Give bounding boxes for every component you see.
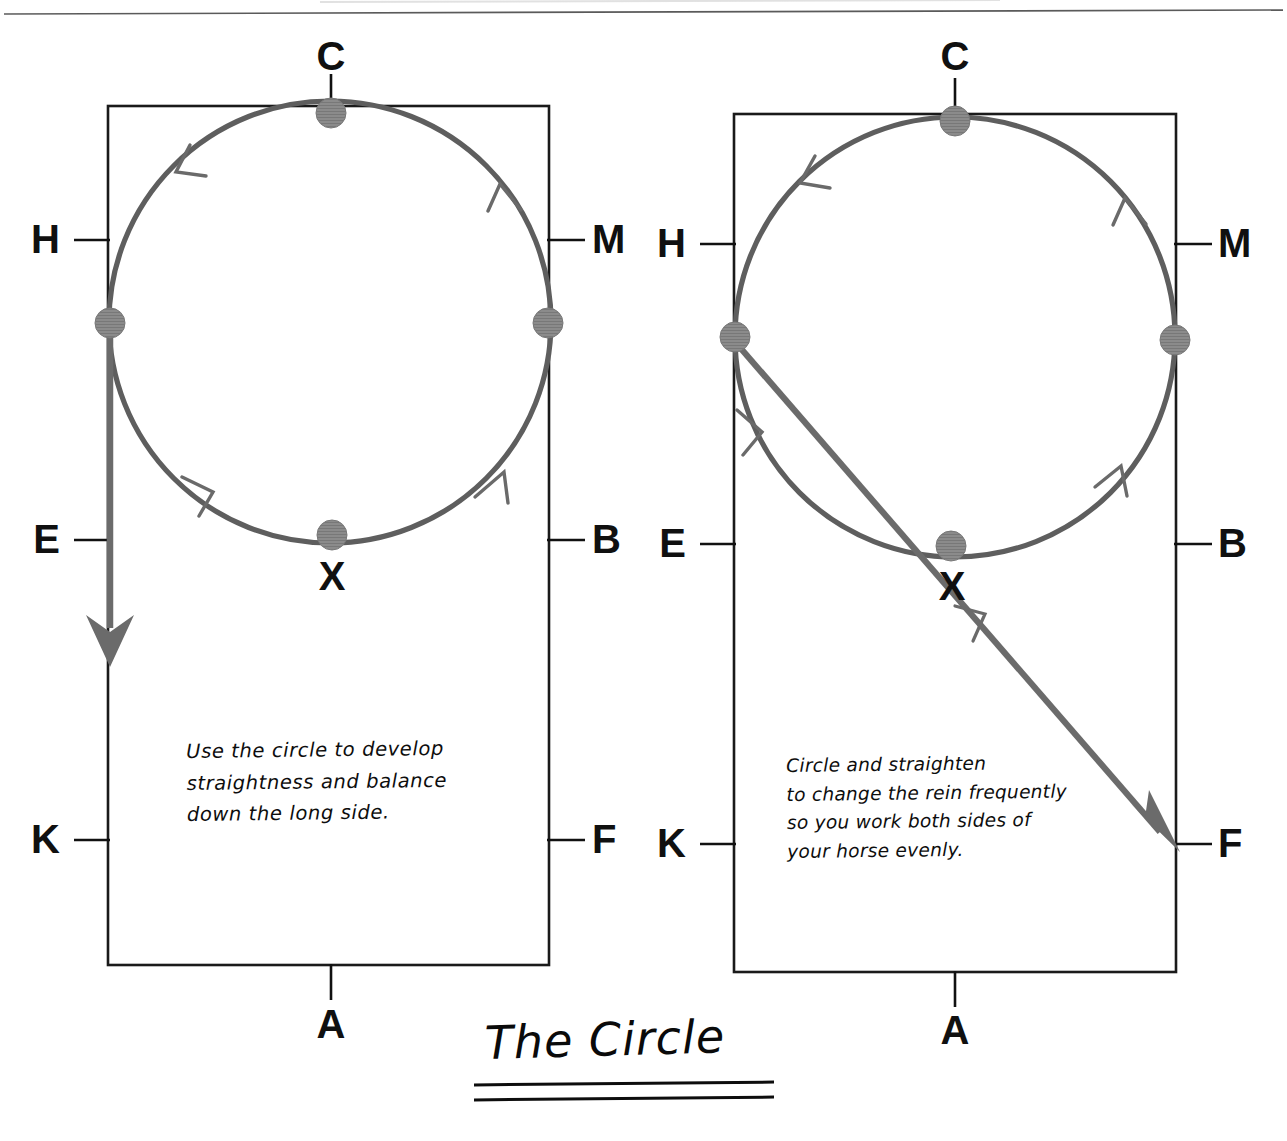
arrowhead-diagonal — [1131, 790, 1180, 852]
title-underline-2 — [474, 1096, 774, 1102]
page-title: The Circle — [484, 1009, 726, 1070]
circle-direction-arrows — [176, 145, 521, 516]
marker-label-h-left: H — [0, 219, 60, 259]
marker-label-x-left: X — [319, 556, 346, 596]
left-arena-diagram — [74, 74, 585, 1000]
marker-label-e-right: E — [626, 523, 686, 563]
right-arena-diagram — [700, 78, 1212, 1007]
circle-direction-arrows — [737, 156, 1146, 496]
title-underline-1 — [474, 1081, 774, 1087]
worksheet-page: C H M E B K F A X C H M E B K F A X Use … — [0, 0, 1287, 1141]
marker-label-b-right: B — [1218, 523, 1247, 563]
dot-X — [936, 531, 966, 561]
note-left-diagram: Use the circle to develop straightness a… — [186, 732, 517, 831]
marker-label-c-right: C — [941, 36, 970, 76]
marker-label-x-right: X — [939, 566, 966, 606]
marker-label-a-right: A — [941, 1010, 970, 1050]
title-block: The Circle — [466, 1016, 786, 1121]
dot-right-wall — [533, 308, 563, 338]
circle-path — [109, 101, 551, 543]
marker-label-m-right: M — [1218, 223, 1251, 263]
marker-label-k-left: K — [0, 819, 60, 859]
marker-label-a-left: A — [317, 1004, 346, 1044]
diagram-canvas — [0, 0, 1287, 1141]
marker-label-h-right: H — [626, 223, 686, 263]
straight-line-long-side — [86, 322, 134, 667]
marker-dots — [720, 106, 1190, 561]
dot-C — [316, 98, 346, 128]
dot-right-wall — [1160, 325, 1190, 355]
marker-label-b-left: B — [592, 519, 621, 559]
marker-label-m-left: M — [592, 219, 625, 259]
dot-C — [940, 106, 970, 136]
arrowhead-diagonal-mid — [955, 606, 985, 641]
dot-left-wall — [95, 308, 125, 338]
dot-left-wall — [720, 322, 750, 352]
marker-label-e-left: E — [0, 519, 60, 559]
marker-label-f-left: F — [592, 819, 616, 859]
note-right-diagram: Circle and straighten to change the rein… — [786, 748, 1127, 867]
marker-label-f-right: F — [1218, 823, 1242, 863]
marker-label-c-left: C — [317, 36, 346, 76]
dot-X — [317, 520, 347, 550]
page-header-rule — [4, 0, 1283, 14]
marker-label-k-right: K — [626, 823, 686, 863]
